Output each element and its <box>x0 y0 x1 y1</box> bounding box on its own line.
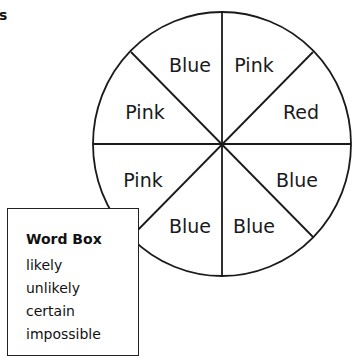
word-item: unlikely <box>26 277 101 300</box>
word-box: Word Box likely unlikely certain impossi… <box>7 208 139 356</box>
segment-label-5: Blue <box>233 215 275 237</box>
segment-label-4: Blue <box>276 169 318 191</box>
word-item: likely <box>26 254 101 277</box>
segment-label-7: Pink <box>123 169 162 191</box>
segment-label-6: Blue <box>169 215 211 237</box>
word-item: certain <box>26 300 101 323</box>
segment-label-2: Pink <box>234 54 273 76</box>
word-item: impossible <box>26 323 101 346</box>
word-box-title: Word Box <box>26 231 102 247</box>
segment-label-1: Blue <box>169 54 211 76</box>
word-list: likely unlikely certain impossible <box>26 254 101 346</box>
segment-label-3: Red <box>283 101 319 123</box>
segment-label-8: Pink <box>125 101 164 123</box>
